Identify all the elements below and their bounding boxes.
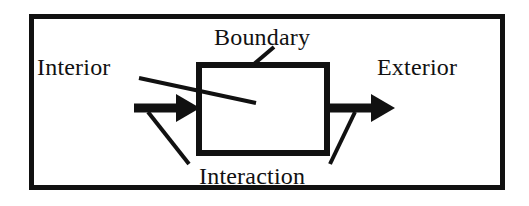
system-box <box>199 65 327 153</box>
label-boundary: Boundary <box>214 25 310 49</box>
outbound-arrow-shaft <box>330 104 373 113</box>
label-interaction: Interaction <box>199 164 305 188</box>
outbound-arrow-head <box>371 94 395 122</box>
label-exterior: Exterior <box>377 55 457 79</box>
inbound-arrow-shaft <box>134 104 178 113</box>
outbound-interaction-arrow <box>330 94 395 122</box>
inbound-interaction-arrow <box>134 94 200 122</box>
label-interior: Interior <box>37 55 111 79</box>
system-boundary-diagram: Interior Boundary Exterior Interaction <box>0 0 529 206</box>
interaction-leader-line-right <box>330 112 355 164</box>
interaction-leader-line-left <box>148 112 189 164</box>
